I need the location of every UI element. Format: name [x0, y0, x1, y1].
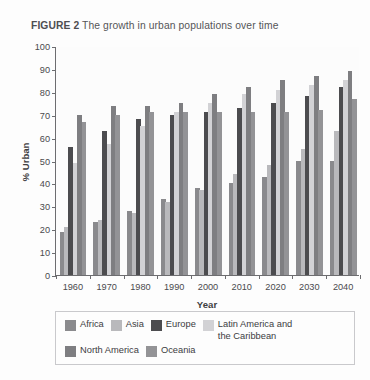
legend-swatch-icon [111, 320, 122, 331]
y-tick-mark [52, 116, 56, 117]
legend-label: Asia [126, 319, 144, 331]
y-tick-label: 20 [40, 225, 50, 235]
legend-label: Africa [80, 319, 104, 331]
legend-label: Latin America and the Caribbean [218, 319, 292, 342]
legend-item[interactable]: Latin America and the Caribbean [203, 319, 292, 342]
y-tick-label: 60 [40, 134, 50, 144]
legend-item[interactable]: Oceania [146, 345, 196, 357]
legend-item[interactable]: Africa [65, 319, 104, 331]
x-tick-mark [157, 275, 158, 279]
chart-legend: AfricaAsiaEuropeLatin America and the Ca… [55, 311, 355, 365]
legend-label: Europe [166, 319, 196, 331]
y-tick-label: 80 [40, 88, 50, 98]
y-tick-mark [52, 47, 56, 48]
legend-item[interactable]: North America [65, 345, 139, 357]
bar [115, 115, 120, 275]
y-tick-mark [52, 162, 56, 163]
y-tick-label: 10 [40, 248, 50, 258]
bar [318, 110, 323, 275]
legend-swatch-icon [65, 320, 76, 331]
y-tick-mark [52, 139, 56, 140]
x-tick-label: 1970 [96, 282, 116, 292]
x-tick-mark [191, 275, 192, 279]
y-tick-mark [52, 230, 56, 231]
x-tick-mark [360, 275, 361, 279]
y-tick-label: 40 [40, 179, 50, 189]
y-tick-label: 90 [40, 65, 50, 75]
y-tick-label: 50 [40, 157, 50, 167]
y-tick-mark [52, 207, 56, 208]
x-tick-mark [292, 275, 293, 279]
x-tick-mark [90, 275, 91, 279]
x-tick-mark [225, 275, 226, 279]
bar [352, 99, 357, 275]
plot-area: 1009080706050403020100 19601970198019902… [55, 47, 359, 276]
bar [183, 112, 188, 275]
x-tick-label: 2020 [265, 282, 285, 292]
legend-label: North America [80, 345, 139, 357]
figure-container: FIGURE 2 The growth in urban populations… [0, 0, 370, 380]
bar [149, 112, 154, 275]
figure-caption: The growth in urban populations over tim… [82, 20, 278, 31]
legend-item[interactable]: Asia [111, 319, 144, 331]
x-tick-label: 1980 [130, 282, 150, 292]
x-tick-label: 2030 [299, 282, 319, 292]
y-tick-mark [52, 184, 56, 185]
x-tick-label: 2040 [333, 282, 353, 292]
legend-swatch-icon [151, 320, 162, 331]
plot-wrapper: % Urban 1009080706050403020100 196019701… [0, 36, 370, 288]
x-axis-title: Year [55, 299, 359, 310]
legend-row-1: AfricaAsiaEuropeLatin America and the Ca… [65, 319, 346, 342]
y-tick-label: 0 [45, 271, 50, 281]
bar [251, 112, 256, 275]
figure-title: FIGURE 2 The growth in urban populations… [31, 20, 361, 31]
bar [82, 122, 87, 275]
figure-number: FIGURE 2 [31, 20, 79, 31]
legend-row-2: North AmericaOceania [65, 345, 346, 357]
legend-swatch-icon [146, 346, 157, 357]
y-tick-label: 70 [40, 111, 50, 121]
legend-swatch-icon [65, 346, 76, 357]
legend-item[interactable]: Europe [151, 319, 196, 331]
x-tick-mark [56, 275, 57, 279]
legend-swatch-icon [203, 320, 214, 331]
x-tick-label: 2000 [198, 282, 218, 292]
legend-label: Oceania [161, 345, 196, 357]
x-tick-label: 1960 [63, 282, 83, 292]
x-tick-mark [259, 275, 260, 279]
x-tick-mark [326, 275, 327, 279]
y-tick-mark [52, 70, 56, 71]
x-tick-label: 1990 [164, 282, 184, 292]
y-axis-title: % Urban [20, 143, 31, 182]
bar [284, 112, 289, 275]
y-tick-mark [52, 93, 56, 94]
bar [217, 112, 222, 275]
y-tick-label: 100 [35, 42, 50, 52]
y-tick-label: 30 [40, 202, 50, 212]
y-tick-mark [52, 253, 56, 254]
x-tick-mark [124, 275, 125, 279]
x-tick-label: 2010 [232, 282, 252, 292]
